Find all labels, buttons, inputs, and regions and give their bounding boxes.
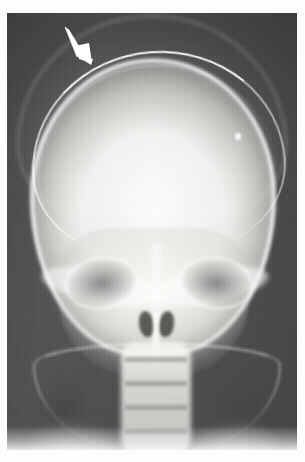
xray-plate: [7, 13, 297, 450]
radiograph-figure: [0, 0, 305, 462]
film-grain-overlay: [7, 13, 297, 450]
film-bottom-fade: [7, 426, 297, 450]
